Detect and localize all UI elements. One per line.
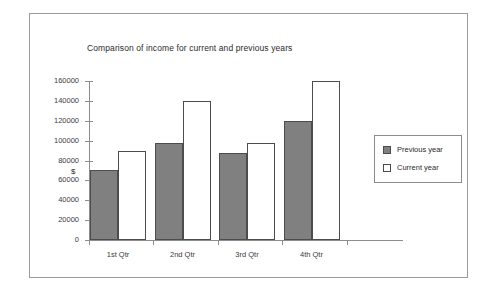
bar-current-year [183, 101, 211, 240]
x-axis-tick [153, 240, 154, 245]
legend-swatch-icon [383, 146, 391, 154]
legend-item-label: Previous year [397, 145, 443, 154]
bar-current-year [312, 81, 340, 240]
bar-previous-year [284, 121, 312, 240]
y-axis-tick-label: 40000 [58, 195, 79, 204]
legend-item[interactable]: Previous year [383, 145, 443, 154]
x-axis-category-label: 4th Qtr [300, 250, 323, 259]
y-axis-tick: 140000 [85, 101, 93, 102]
y-axis-tick-label: 140000 [54, 96, 79, 105]
y-axis-tick-label: 120000 [54, 116, 79, 125]
chart-legend: Previous yearCurrent year [374, 135, 462, 183]
plot-area: 1600001400001200001000008000060000400002… [89, 64, 403, 240]
bar-previous-year [90, 170, 118, 240]
y-axis-tick: 100000 [85, 141, 93, 142]
bar-current-year [247, 143, 275, 240]
y-axis-tick-label: 0 [75, 235, 79, 244]
bar-previous-year [219, 153, 247, 240]
y-axis-tick-label: 60000 [58, 175, 79, 184]
y-axis-tick-label: 100000 [54, 136, 79, 145]
y-axis-tick: 80000 [85, 161, 93, 162]
x-axis-tick [282, 240, 283, 245]
y-axis-tick: 160000 [85, 81, 93, 82]
y-axis-tick-label: 20000 [58, 215, 79, 224]
y-axis-tick-label: 80000 [58, 156, 79, 165]
chart-title: Comparison of income for current and pre… [87, 43, 292, 53]
legend-item-label: Current year [397, 163, 439, 172]
x-axis-category-label: 1st Qtr [107, 250, 130, 259]
x-axis-category-label: 3rd Qtr [235, 250, 258, 259]
x-axis-category-label: 2nd Qtr [170, 250, 195, 259]
y-axis-tick: 120000 [85, 121, 93, 122]
legend-item[interactable]: Current year [383, 163, 439, 172]
x-axis-tick [89, 240, 90, 245]
bar-previous-year [155, 143, 183, 240]
x-axis-tick [347, 240, 348, 245]
y-axis-tick-label: 160000 [54, 76, 79, 85]
bar-current-year [118, 151, 146, 240]
legend-swatch-icon [383, 164, 391, 172]
x-axis-line [89, 240, 403, 241]
x-axis-tick [218, 240, 219, 245]
